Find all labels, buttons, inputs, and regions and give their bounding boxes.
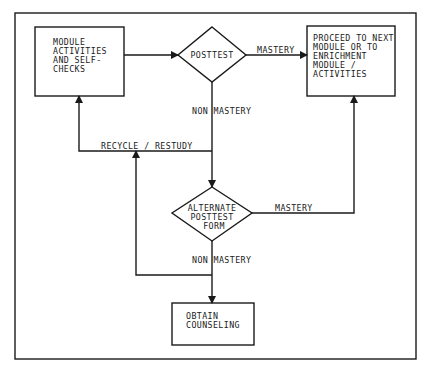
alternate-mastery-label: MASTERY	[275, 203, 313, 213]
alternate-posttest-line: FORM	[203, 221, 225, 231]
obtain-counseling-line: COUNSELING	[186, 320, 240, 330]
svg-text:MASTERY: MASTERY	[257, 45, 295, 55]
svg-text:NON MASTERY: NON MASTERY	[192, 255, 251, 265]
svg-text:COUNSELING: COUNSELING	[186, 320, 240, 330]
obtain-counseling-box: OBTAIN COUNSELING	[172, 303, 254, 345]
edge-alternate-mastery	[252, 96, 354, 213]
svg-text:NON MASTERY: NON MASTERY	[192, 106, 251, 116]
svg-text:CHECKS: CHECKS	[53, 64, 85, 74]
svg-text:POSTTEST: POSTTEST	[190, 50, 233, 60]
proceed-line: ACTIVITIES	[313, 69, 367, 79]
posttest-label: POSTTEST	[190, 50, 233, 60]
alternate-posttest-decision: ALTERNATE POSTTEST FORM	[172, 187, 252, 241]
svg-text:MASTERY: MASTERY	[275, 203, 313, 213]
svg-text:ACTIVITIES: ACTIVITIES	[313, 69, 367, 79]
module-activities-line: CHECKS	[53, 64, 85, 74]
posttest-non-mastery-label: NON MASTERY	[192, 106, 251, 116]
svg-text:FORM: FORM	[203, 221, 225, 231]
module-activities-box: MODULE ACTIVITIES AND SELF- CHECKS	[35, 27, 124, 96]
recycle-restudy-label: RECYCLE / RESTUDY	[101, 141, 193, 151]
posttest-decision: POSTTEST	[178, 27, 246, 82]
posttest-mastery-label: MASTERY	[257, 45, 295, 55]
proceed-box: PROCEED TO NEXT MODULE OR TO ENRICHMENT …	[307, 26, 395, 96]
svg-text:RECYCLE / RESTUDY: RECYCLE / RESTUDY	[101, 141, 193, 151]
alternate-non-mastery-label: NON MASTERY	[192, 255, 251, 265]
flowchart-diagram: MODULE ACTIVITIES AND SELF- CHECKS POSTT…	[0, 0, 429, 370]
